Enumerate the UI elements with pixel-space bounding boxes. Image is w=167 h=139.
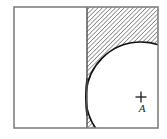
figure-container: A — [0, 0, 167, 139]
point-label-A: A — [138, 102, 146, 114]
unhatched-left-region — [14, 7, 87, 128]
hatched-area — [87, 7, 158, 128]
hatch-fill — [87, 7, 158, 128]
geometry-diagram: A — [0, 0, 167, 139]
